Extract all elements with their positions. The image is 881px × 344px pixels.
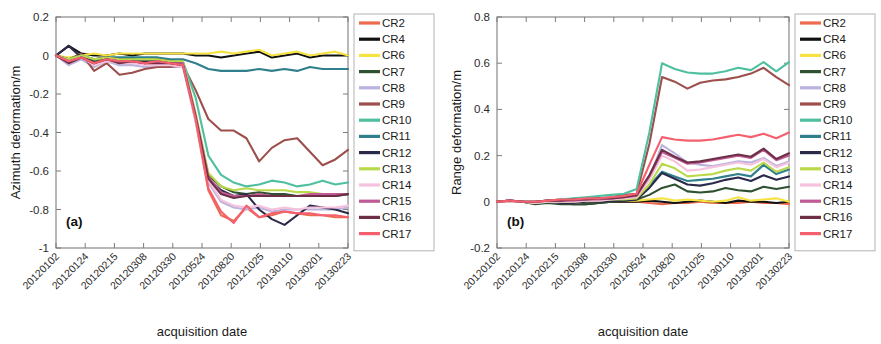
- legend-label-CR9[interactable]: CR9: [823, 98, 846, 110]
- y-tick-label: 0: [484, 196, 490, 208]
- legend-label-CR16[interactable]: CR16: [823, 211, 852, 223]
- legend-label-CR12[interactable]: CR12: [382, 147, 411, 159]
- legend-label-CR2[interactable]: CR2: [823, 17, 846, 29]
- x-axis-title: acquisition date: [598, 324, 688, 339]
- legend-label-CR13[interactable]: CR13: [382, 163, 411, 175]
- y-tick-label: 0.2: [33, 11, 49, 23]
- y-axis-title: Azimuth deformation/m: [8, 66, 23, 200]
- y-tick-label: -0.4: [29, 127, 49, 139]
- legend-label-CR11[interactable]: CR11: [382, 130, 411, 142]
- y-tick-label: -1: [39, 242, 49, 254]
- panel-tag: (a): [66, 214, 83, 229]
- x-axis-title: acquisition date: [157, 324, 247, 339]
- legend-label-CR6[interactable]: CR6: [382, 49, 405, 61]
- legend-label-CR13[interactable]: CR13: [823, 163, 852, 175]
- legend-label-CR6[interactable]: CR6: [823, 49, 846, 61]
- y-tick-label: 0.4: [474, 103, 491, 115]
- legend-label-CR17[interactable]: CR17: [382, 228, 411, 240]
- legend-label-CR15[interactable]: CR15: [382, 195, 411, 207]
- y-tick-label: 0: [43, 50, 49, 62]
- y-tick-label: 0.8: [474, 11, 490, 23]
- panel-tag: (b): [507, 214, 524, 229]
- legend-label-CR7[interactable]: CR7: [382, 66, 405, 78]
- legend-label-CR17[interactable]: CR17: [823, 228, 852, 240]
- chart-panel-a: 0.20-0.2-0.4-0.6-0.8-1201201022012012420…: [0, 0, 440, 344]
- legend-label-CR10[interactable]: CR10: [823, 114, 852, 126]
- legend-label-CR10[interactable]: CR10: [382, 114, 411, 126]
- legend-label-CR12[interactable]: CR12: [823, 147, 852, 159]
- legend-label-CR4[interactable]: CR4: [823, 33, 847, 45]
- chart-panel-b: 0.80.60.40.20-0.220120102201201242012021…: [441, 0, 881, 344]
- y-tick-label: 0.6: [474, 57, 490, 69]
- y-tick-label: -0.6: [29, 165, 49, 177]
- y-tick-label: -0.2: [29, 88, 49, 100]
- legend-label-CR8[interactable]: CR8: [382, 82, 405, 94]
- legend-label-CR7[interactable]: CR7: [823, 66, 846, 78]
- y-axis-title: Range deformation/m: [449, 70, 464, 195]
- chart-svg: 0.20-0.2-0.4-0.6-0.8-1201201022012012420…: [0, 0, 440, 344]
- plot-frame: [497, 17, 789, 248]
- y-tick-label: 0.2: [474, 150, 490, 162]
- y-tick-label: -0.2: [470, 242, 490, 254]
- y-tick-label: -0.8: [29, 204, 49, 216]
- figure-container: 0.20-0.2-0.4-0.6-0.8-1201201022012012420…: [0, 0, 881, 344]
- legend-label-CR16[interactable]: CR16: [382, 211, 411, 223]
- legend-label-CR2[interactable]: CR2: [382, 17, 405, 29]
- legend-label-CR15[interactable]: CR15: [823, 195, 852, 207]
- legend-label-CR4[interactable]: CR4: [382, 33, 406, 45]
- legend-label-CR8[interactable]: CR8: [823, 82, 846, 94]
- legend-label-CR9[interactable]: CR9: [382, 98, 405, 110]
- legend-label-CR14[interactable]: CR14: [382, 179, 412, 191]
- legend-label-CR14[interactable]: CR14: [823, 179, 853, 191]
- legend-label-CR11[interactable]: CR11: [823, 130, 852, 142]
- chart-svg: 0.80.60.40.20-0.220120102201201242012021…: [441, 0, 881, 344]
